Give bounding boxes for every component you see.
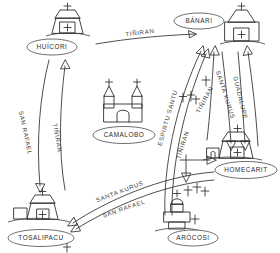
mission-network-diagram: HUÍCORI BÁNARI CAMALOBO HOMECARIT ARÓCOS…	[0, 0, 280, 253]
church-icon-camalobo	[104, 79, 142, 122]
node-huicori[interactable]: HUÍCORI	[27, 39, 77, 55]
node-label-homecarit: HOMECARIT	[224, 166, 267, 173]
node-homecarit[interactable]: HOMECARIT	[215, 162, 277, 179]
route-label-san-rafael-homecarit-tosalipacu: SAN RAFAEL	[101, 198, 145, 219]
node-label-banari: BÁNARI	[185, 16, 212, 24]
route-homecarit-tosalipacu-sanrafael	[71, 180, 214, 232]
route-huicori-tosalipacu	[36, 60, 50, 192]
route-label-tiniran-tosalipacu-huicori: TIÑIRAN	[52, 123, 64, 153]
church-icon-banari	[220, 3, 265, 44]
route-label-espirtu-santu: ESPIRTU SANTU	[156, 89, 179, 146]
church-icon-homecarit	[203, 125, 262, 160]
node-label-tosalipacu: TOSALIPACU	[18, 234, 63, 241]
cross-icons-group	[64, 76, 211, 252]
node-label-camalobo: CAMALOBO	[104, 131, 145, 138]
route-label-san-rafael-huicori-tosalipacu: SAN RAFAEL	[18, 110, 34, 155]
route-label-tiniran-arocosi-banari: TIÑIRAN	[174, 130, 190, 160]
node-label-huicori: HUÍCORI	[37, 42, 68, 50]
church-icon-huicori	[46, 3, 90, 36]
node-camalobo[interactable]: CAMALOBO	[93, 127, 155, 144]
node-label-arocosi: ARÓCOSI	[176, 233, 209, 241]
node-banari[interactable]: BÁNARI	[174, 13, 224, 29]
route-tosalipacu-huicori	[60, 60, 69, 190]
node-arocosi[interactable]: ARÓCOSI	[168, 230, 218, 246]
node-tosalipacu[interactable]: TOSALIPACU	[8, 230, 74, 247]
church-icon-arocosi	[155, 190, 201, 231]
route-label-tiniran-huicori-banari: TIÑIRAN	[125, 27, 155, 38]
church-icon-tosalipacu	[8, 188, 70, 222]
route-homecarit-banari-return	[243, 46, 258, 146]
route-into-arocosi	[182, 155, 191, 182]
